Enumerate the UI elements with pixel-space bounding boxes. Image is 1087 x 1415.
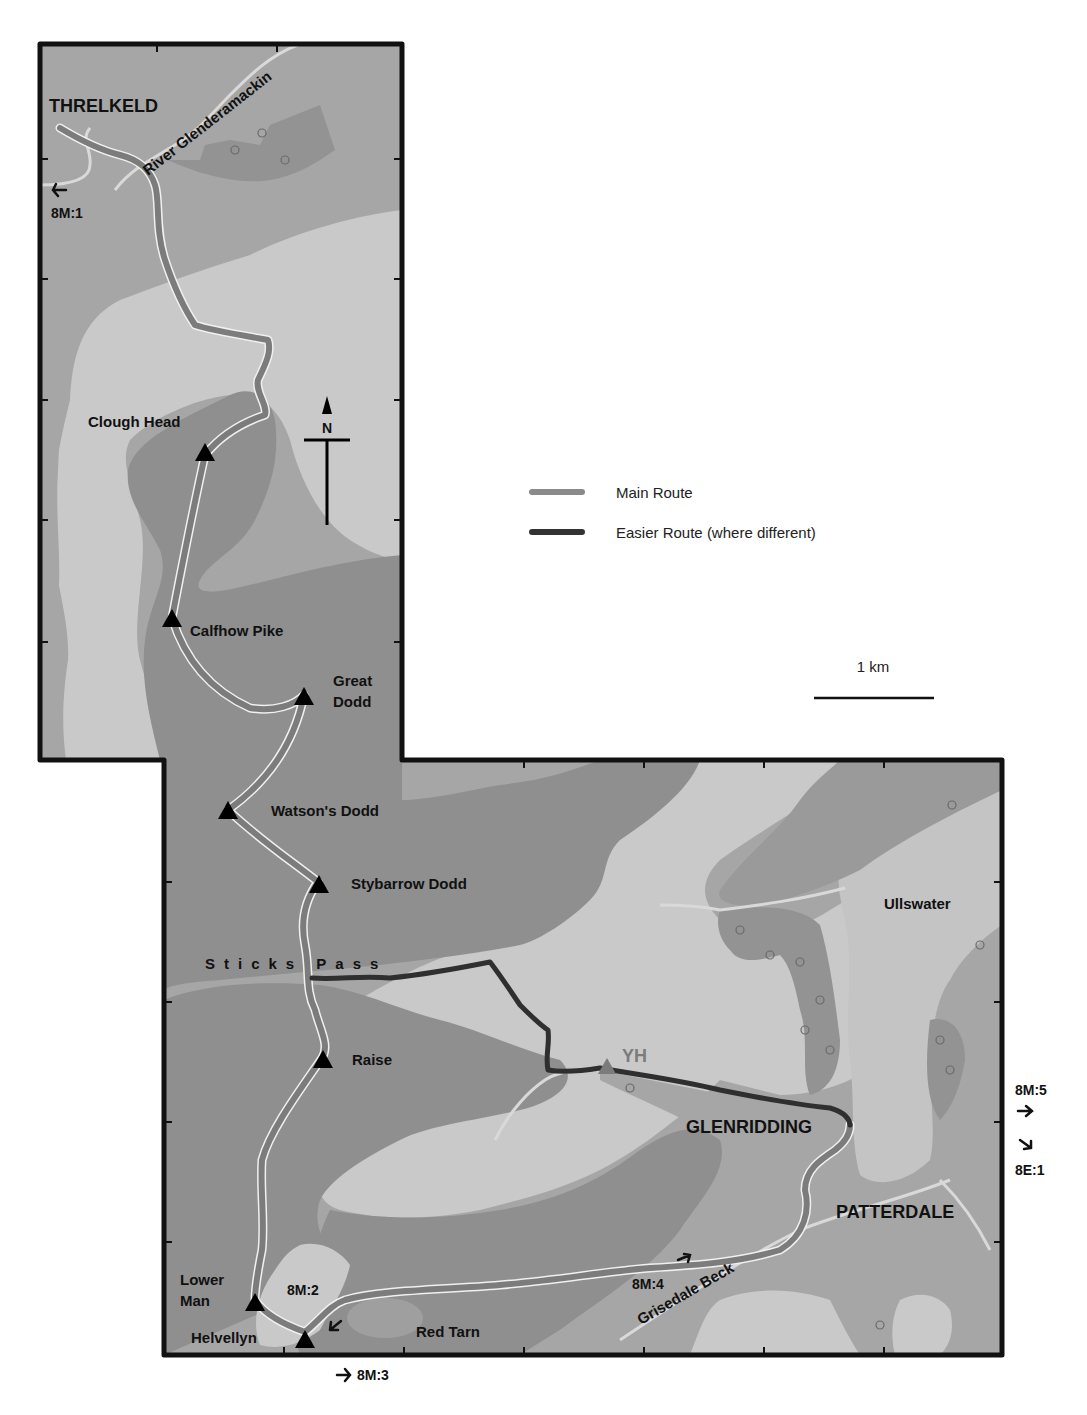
label-great-dodd-1: Great — [333, 672, 372, 689]
legend-label-easier-route: Easier Route (where different) — [616, 524, 816, 541]
route-map: N THRELKELD River Glenderamackin 8M:1 Cl… — [0, 0, 1087, 1415]
label-watsons-dodd: Watson's Dodd — [271, 802, 379, 819]
arrow-icon-8m5 — [1018, 1106, 1032, 1116]
label-ref-8m2: 8M:2 — [287, 1282, 319, 1298]
label-ref-8m4: 8M:4 — [632, 1276, 664, 1292]
legend-label-main-route: Main Route — [616, 484, 693, 501]
label-ref-8e1: 8E:1 — [1015, 1162, 1045, 1178]
arrow-icon-8e1 — [1020, 1140, 1031, 1149]
label-threlkeld: THRELKELD — [49, 96, 158, 116]
label-lower-man-1: Lower — [180, 1271, 224, 1288]
label-youth-hostel: YH — [622, 1046, 647, 1066]
label-lower-man-2: Man — [180, 1292, 210, 1309]
label-clough-head: Clough Head — [88, 413, 181, 430]
label-glenridding: GLENRIDDING — [686, 1117, 812, 1137]
label-ullswater: Ullswater — [884, 895, 951, 912]
arrow-icon-8m3 — [337, 1369, 350, 1381]
label-helvellyn: Helvellyn — [191, 1329, 257, 1346]
label-calfhow-pike: Calfhow Pike — [190, 622, 283, 639]
label-red-tarn: Red Tarn — [416, 1323, 480, 1340]
legend: Main Route Easier Route (where different… — [532, 484, 816, 541]
label-ref-8m5: 8M:5 — [1015, 1082, 1047, 1098]
label-raise: Raise — [352, 1051, 392, 1068]
scale-bar: 1 km — [814, 658, 934, 698]
label-great-dodd-2: Dodd — [333, 693, 371, 710]
label-stybarrow-dodd: Stybarrow Dodd — [351, 875, 467, 892]
north-label: N — [322, 420, 332, 436]
label-ref-8m1: 8M:1 — [51, 205, 83, 221]
label-ref-8m3: 8M:3 — [357, 1367, 389, 1383]
fell-area-south-east-2 — [892, 1295, 952, 1355]
label-patterdale: PATTERDALE — [836, 1202, 954, 1222]
scale-label: 1 km — [857, 658, 890, 675]
tarn-red-tarn — [347, 1298, 423, 1338]
label-sticks-pass: Sticks Pass — [205, 955, 387, 972]
